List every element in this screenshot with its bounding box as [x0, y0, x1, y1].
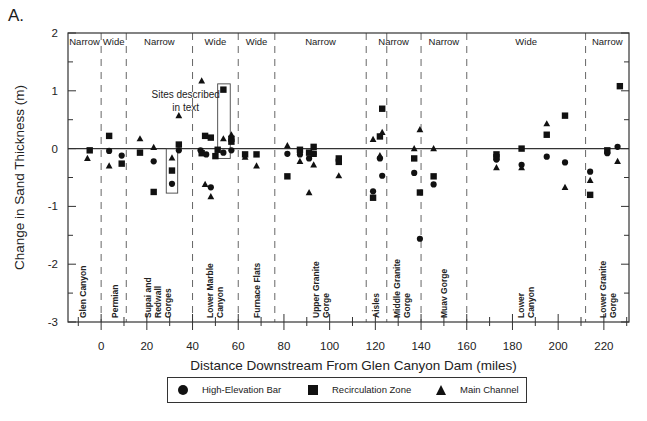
reach-width-labels: NarrowWideNarrowWideWideNarrowNarrowNarr… [69, 36, 622, 47]
x-tick-label: 160 [457, 340, 476, 352]
point-main-channel [493, 164, 500, 170]
y-tick-label: -2 [48, 258, 58, 270]
point-main-channel [587, 177, 594, 183]
point-recirculation-zone [430, 173, 436, 179]
point-main-channel [562, 184, 569, 190]
x-tick-label: 100 [320, 340, 339, 352]
point-recirculation-zone [284, 173, 290, 179]
reach-width-label: Narrow [592, 36, 623, 47]
point-recirculation-zone [379, 106, 385, 112]
region-label-line: Glen Canyon [78, 266, 88, 318]
point-main-channel [150, 144, 157, 150]
point-main-channel [228, 131, 235, 137]
region-label-line: Upper Granite [311, 261, 321, 318]
annotation-text: in text [172, 102, 199, 113]
point-main-channel [306, 189, 313, 195]
y-tick-label: -3 [48, 316, 58, 328]
point-high-elevation-bar [544, 154, 550, 160]
region-labels: Glen CanyonPermianSupai andRedwallGorges… [78, 259, 619, 318]
point-main-channel [614, 158, 621, 164]
point-main-channel [379, 129, 386, 135]
reach-width-label: Narrow [305, 36, 336, 47]
region-label-line: Gorges [163, 288, 173, 318]
point-main-channel [220, 135, 227, 141]
point-main-channel [202, 181, 209, 187]
reach-width-label: Wide [246, 36, 268, 47]
region-label-line: Aisles [371, 293, 381, 318]
point-recirculation-zone [176, 141, 182, 147]
point-main-channel [417, 126, 424, 132]
region-label-line: Canyon [215, 287, 225, 318]
point-recirculation-zone [214, 147, 220, 153]
point-recirculation-zone [253, 151, 259, 157]
x-tick-label: 60 [232, 340, 245, 352]
x-axis-title: Distance Downstream From Glen Canyon Dam… [190, 358, 516, 373]
region-label-line: Lower Granite [598, 261, 608, 318]
point-high-elevation-bar [228, 147, 234, 153]
region-label-line: Furnace Flats [252, 262, 262, 318]
reach-boundary-lines [101, 33, 585, 322]
point-main-channel [335, 172, 342, 178]
point-main-channel [198, 77, 205, 83]
reach-width-label: Narrow [144, 36, 175, 47]
region-label: Upper GraniteGorge [311, 261, 331, 318]
region-label-line: Gorge [321, 293, 331, 318]
point-high-elevation-bar [587, 169, 593, 175]
point-recirculation-zone [417, 189, 423, 195]
point-main-channel [207, 193, 214, 199]
point-recirculation-zone [150, 189, 156, 195]
circle-marker-icon [178, 385, 188, 395]
x-tick-label: 120 [366, 340, 385, 352]
y-tick-label: -1 [48, 200, 58, 212]
point-recirculation-zone [518, 145, 524, 151]
region-label: Lower MarbleCanyon [205, 263, 225, 318]
x-axis: 020406080100120140160180200220 [78, 314, 626, 352]
point-recirculation-zone [106, 133, 112, 139]
point-recirculation-zone [212, 153, 218, 159]
point-recirculation-zone [336, 159, 342, 165]
point-recirculation-zone [119, 160, 125, 166]
point-high-elevation-bar [169, 181, 175, 187]
region-label: Supai andRedwallGorges [143, 277, 173, 318]
point-recirculation-zone [493, 154, 499, 160]
region-label: Aisles [371, 293, 381, 318]
data-points [84, 77, 623, 241]
region-label-line: Canyon [526, 287, 536, 318]
region-label: Muav Gorge [439, 269, 449, 318]
x-tick-label: 20 [140, 340, 153, 352]
point-recirculation-zone [587, 192, 593, 198]
legend: High-Elevation Bar Recirculation Zone Ma… [167, 377, 527, 403]
annotation-text: Sites described [151, 89, 219, 100]
point-main-channel [84, 155, 91, 161]
annotation: Sites describedin text [151, 89, 219, 113]
x-tick-label: 180 [503, 340, 522, 352]
region-label-line: Middle Granite [392, 259, 402, 318]
region-label: Furnace Flats [252, 262, 262, 318]
region-label-line: Gorge [402, 293, 412, 318]
x-tick-label: 40 [186, 340, 199, 352]
region-label: Permian [110, 284, 120, 318]
x-tick-label: 200 [549, 340, 568, 352]
point-main-channel [175, 112, 182, 118]
point-main-channel [377, 152, 384, 158]
point-recirculation-zone [310, 144, 316, 150]
x-tick-label: 80 [278, 340, 291, 352]
reach-width-label: Wide [515, 36, 537, 47]
point-main-channel [253, 162, 260, 168]
x-tick-label: 140 [411, 340, 430, 352]
legend-item-main-channel: Main Channel [436, 384, 519, 395]
legend-item-recirculation-zone: Recirculation Zone [308, 384, 411, 395]
point-high-elevation-bar [284, 151, 290, 157]
point-recirculation-zone [198, 150, 204, 156]
x-tick-label: 220 [594, 340, 613, 352]
highlight-boxes [166, 84, 230, 193]
point-high-elevation-bar [562, 159, 568, 165]
point-high-elevation-bar [176, 147, 182, 153]
point-main-channel [297, 158, 304, 164]
region-label-line: Gorge [608, 293, 618, 318]
y-tick-label: 2 [52, 27, 58, 39]
region-label-line: Lower Marble [205, 263, 215, 318]
point-main-channel [543, 120, 550, 126]
point-main-channel [169, 154, 176, 160]
point-main-channel [370, 136, 377, 142]
